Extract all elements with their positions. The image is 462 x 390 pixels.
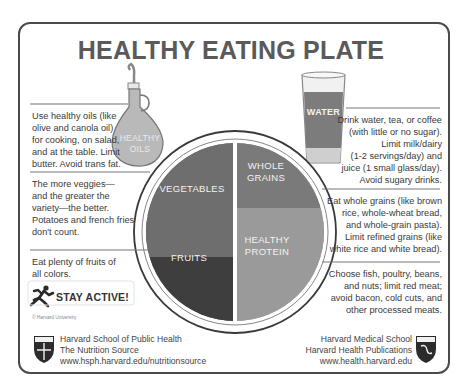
vegetables-note: The more veggies— and the greater the va…	[32, 178, 134, 238]
copyright: © Harvard University	[32, 315, 76, 320]
oil-label-1: HEALTHY	[120, 133, 161, 143]
healthy-protein-label-2: PROTEIN	[245, 246, 289, 257]
water-note: Drink water, tea, or coffee (with little…	[302, 114, 442, 186]
whole-grains-label-2: GRAINS	[247, 172, 285, 183]
hsph-shield-icon	[34, 336, 54, 363]
footer-hms: Harvard Medical School Harvard Health Pu…	[262, 334, 412, 367]
whole-grains-label-1: WHOLE	[248, 160, 284, 171]
fruits-note: Eat plenty of fruits of all colors.	[32, 256, 116, 280]
footer-hsph: Harvard School of Public Health The Nutr…	[60, 334, 206, 367]
oil-label-2: OILS	[130, 144, 151, 154]
protein-note: Choose fish, poultry, beans, and nuts; l…	[302, 268, 442, 316]
hsph-url: www.hsph.harvard.edu/nutritionsource	[60, 356, 206, 367]
grains-note: Eat whole grains (like brown rice, whole…	[302, 195, 442, 255]
healthy-protein-label-1: HEALTHY	[244, 234, 290, 245]
fruits-label: FRUITS	[171, 252, 207, 263]
stay-active-label: STAY ACTIVE!	[56, 291, 129, 303]
hms-url: www.health.harvard.edu	[262, 356, 412, 367]
hms-shield-icon	[416, 336, 436, 363]
running-person-icon	[31, 285, 53, 306]
oils-note: Use healthy oils (like olive and canola …	[32, 110, 121, 170]
vegetables-label: VEGETABLES	[159, 183, 224, 194]
